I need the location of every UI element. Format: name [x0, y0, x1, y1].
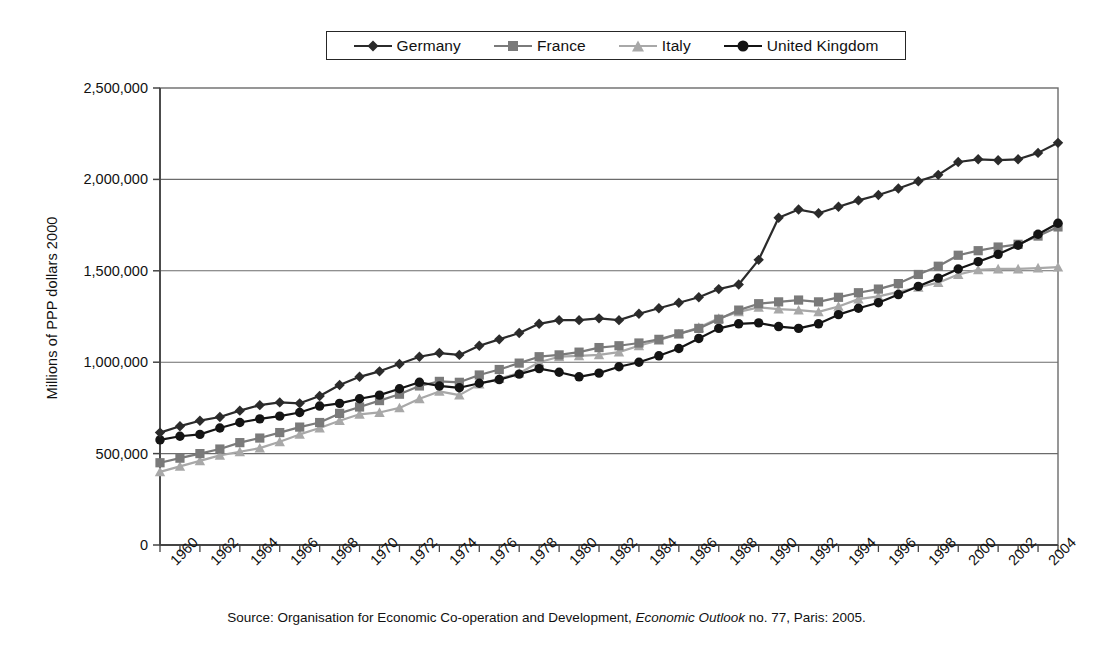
x-tick-label: 1980: [566, 557, 577, 568]
x-tick-label: 1972: [406, 557, 417, 568]
x-tick-label: 1982: [606, 557, 617, 568]
x-tick-label: 1992: [806, 557, 817, 568]
x-tick-label: 2002: [1005, 557, 1016, 568]
source-italic-title: Economic Outlook: [635, 610, 745, 625]
x-tick-label: 1964: [247, 557, 258, 568]
x-tick-label: 1978: [526, 557, 537, 568]
x-tick-label: 1996: [885, 557, 896, 568]
x-tick-label: 1968: [327, 557, 338, 568]
x-tick-label: 1976: [486, 557, 497, 568]
x-tick-label: 2004: [1045, 557, 1056, 568]
x-tick-label: 1994: [845, 557, 856, 568]
chart-figure: Germany France Italy United Kingdom Mill…: [0, 0, 1093, 650]
x-tick-label: 1998: [925, 557, 936, 568]
x-tick-label: 1970: [367, 557, 378, 568]
x-tick-label: 1966: [287, 557, 298, 568]
x-tick-label: 1960: [167, 557, 178, 568]
x-tick-label: 1986: [686, 557, 697, 568]
source-note: Source: Organisation for Economic Co-ope…: [0, 610, 1093, 625]
source-prefix: Source: Organisation for Economic Co-ope…: [227, 610, 635, 625]
x-tick-label: 1974: [446, 557, 457, 568]
x-tick-label: 1990: [766, 557, 777, 568]
x-tick-label: 1984: [646, 557, 657, 568]
source-suffix: no. 77, Paris: 2005.: [745, 610, 866, 625]
x-axis-tick-labels: 1960196219641966196819701972197419761978…: [0, 0, 1093, 650]
x-tick-label: 1962: [207, 557, 218, 568]
x-tick-label: 1988: [726, 557, 737, 568]
x-tick-label: 2000: [965, 557, 976, 568]
